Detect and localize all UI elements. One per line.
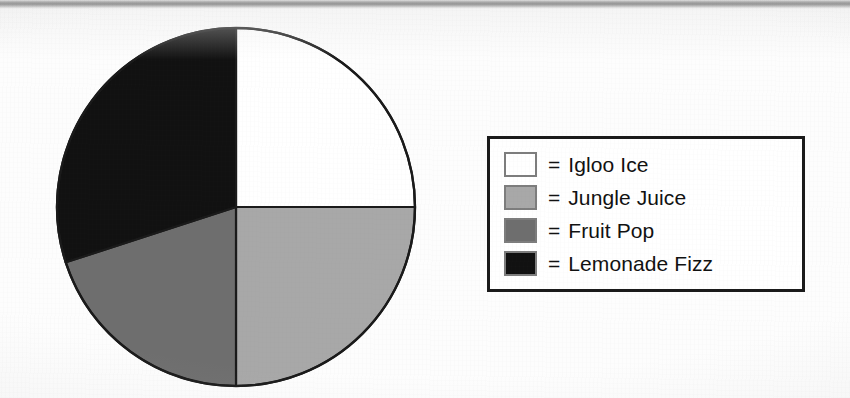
pie-slice-igloo-ice[interactable] <box>236 28 415 207</box>
legend-label-lemonade-fizz: Lemonade Fizz <box>568 253 713 274</box>
pie-chart-svg <box>55 26 417 388</box>
legend-equals-sign-0: = <box>548 154 560 175</box>
legend-swatch-lemonade-fizz <box>504 251 537 276</box>
legend-item-jungle-juice[interactable]: = Jungle Juice <box>504 181 802 214</box>
legend-equals-sign-2: = <box>548 220 560 241</box>
pie-slice-group <box>57 28 415 386</box>
legend-label-igloo-ice: Igloo Ice <box>568 154 648 175</box>
legend-swatch-jungle-juice <box>504 185 537 210</box>
legend-item-lemonade-fizz[interactable]: = Lemonade Fizz <box>504 247 802 280</box>
legend-equals-sign-3: = <box>548 253 560 274</box>
legend-item-fruit-pop[interactable]: = Fruit Pop <box>504 214 802 247</box>
legend-item-igloo-ice[interactable]: = Igloo Ice <box>504 148 802 181</box>
legend-label-fruit-pop: Fruit Pop <box>568 220 654 241</box>
page-canvas: = Igloo Ice = Jungle Juice = Fruit Pop =… <box>0 0 850 398</box>
legend-label-jungle-juice: Jungle Juice <box>568 187 686 208</box>
pie-slice-jungle-juice[interactable] <box>236 207 415 386</box>
scan-edge-shadow <box>0 0 850 9</box>
legend-swatch-igloo-ice <box>504 152 537 177</box>
pie-chart <box>55 26 417 388</box>
legend-equals-sign-1: = <box>548 187 560 208</box>
legend-swatch-fruit-pop <box>504 218 537 243</box>
chart-legend: = Igloo Ice = Jungle Juice = Fruit Pop =… <box>487 136 805 292</box>
